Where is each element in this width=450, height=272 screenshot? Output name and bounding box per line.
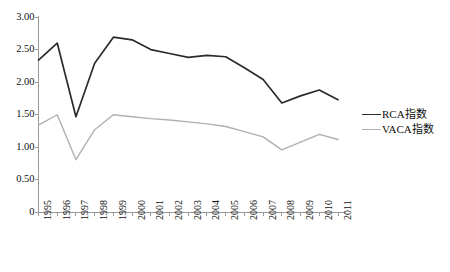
y-axis-tick-label: 1.00 (5, 142, 35, 153)
x-axis-tick-label: 2011 (343, 200, 353, 220)
legend-item-rca: RCA指数 (362, 107, 450, 122)
chart-legend: RCA指数 VACA指数 (362, 107, 450, 137)
y-axis-tick-label: 3.00 (5, 12, 35, 23)
x-axis-tick-label: 2010 (324, 200, 334, 220)
series-line-vaca (39, 115, 339, 160)
legend-label-rca: RCA指数 (382, 109, 427, 120)
y-axis-tick-label: 2.50 (5, 44, 35, 55)
chart-figure: 00.501.001.502.002.503.00 19951996199719… (0, 0, 450, 272)
x-axis-tick-label: 1999 (118, 200, 128, 220)
legend-swatch-rca (362, 114, 381, 115)
x-axis-tick-label: 1996 (62, 200, 72, 220)
x-axis-tick-label: 2005 (230, 200, 240, 220)
chart-series-group (39, 37, 339, 160)
x-axis-tick-label: 2006 (249, 200, 259, 220)
legend-swatch-vaca (362, 129, 381, 130)
x-axis-tick-label: 2008 (286, 200, 296, 220)
x-axis-tick-label: 2004 (211, 200, 221, 220)
legend-label-vaca: VACA指数 (382, 124, 434, 135)
y-axis-tick-label: 0 (5, 207, 35, 218)
x-axis-tick-label: 2002 (174, 200, 184, 220)
legend-item-vaca: VACA指数 (362, 122, 450, 137)
y-axis-tick-label: 2.00 (5, 77, 35, 88)
x-axis-tick-label: 2003 (193, 200, 203, 220)
x-axis-tick-label: 2000 (137, 200, 147, 220)
y-axis-tick-label: 1.50 (5, 109, 35, 120)
y-axis-tick-label: 0.50 (5, 174, 35, 185)
x-axis-tick-label: 2007 (268, 200, 278, 220)
x-axis-tick-label: 2001 (155, 200, 165, 220)
series-line-rca (39, 37, 339, 117)
x-axis-tick-label: 1997 (80, 200, 90, 220)
x-axis-tick-label: 1998 (99, 200, 109, 220)
chart-axes (35, 16, 346, 216)
x-axis-tick-label: 1995 (43, 200, 53, 220)
x-axis-tick-label: 2009 (305, 200, 315, 220)
